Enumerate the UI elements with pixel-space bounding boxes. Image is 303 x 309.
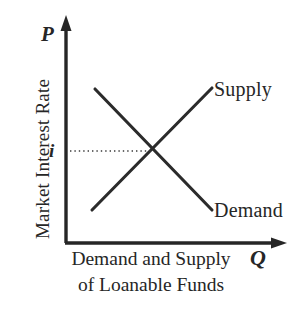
x-axis-arrowhead [271,237,287,248]
loanable-funds-diagram: P Q i Supply Demand Market Interest Rate… [0,0,303,309]
y-axis-title: Market Interest Rate [32,64,54,254]
x-axis-variable-label: Q [250,247,266,269]
y-axis-arrowhead [61,15,72,31]
y-axis-variable-label: P [41,24,54,45]
x-axis-title: Demand and Supply of Loanable Funds [52,246,250,298]
x-axis-title-line-1: Demand and Supply [52,246,250,272]
supply-curve-label: Supply [214,79,272,99]
demand-curve-label: Demand [214,200,283,220]
x-axis-title-line-2: of Loanable Funds [52,272,250,298]
